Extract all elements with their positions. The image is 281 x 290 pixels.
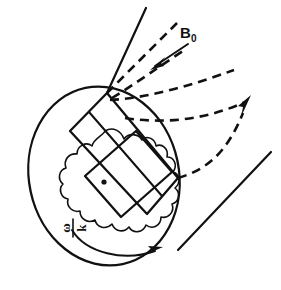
plasma-sphere-diagram: B 0 ω k bbox=[0, 0, 281, 290]
diagram-background bbox=[0, 0, 281, 290]
center-dot bbox=[101, 179, 106, 184]
phase-velocity-numerator: ω bbox=[58, 223, 73, 233]
b0-label: B bbox=[180, 24, 191, 41]
b0-label-subscript: 0 bbox=[191, 33, 197, 44]
phase-velocity-denominator: k bbox=[74, 224, 89, 232]
figure-root: B 0 ω k bbox=[0, 0, 281, 290]
